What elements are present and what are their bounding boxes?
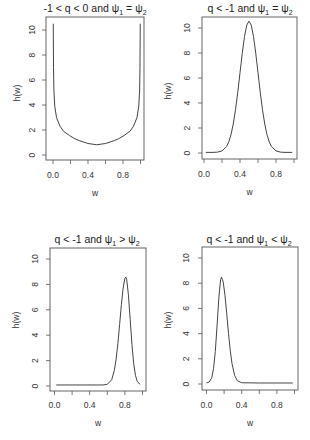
title-subscript: 2 — [136, 240, 140, 247]
title-text: < ψ — [268, 233, 287, 245]
y-tick-label: 10 — [30, 254, 40, 264]
y-tick-label: 6 — [181, 306, 191, 311]
x-tick-label: 0.8 — [271, 400, 283, 410]
x-tick-label: 0.0 — [201, 400, 213, 410]
y-tick-label: 0 — [30, 383, 40, 388]
y-tick-label: 8 — [30, 282, 40, 287]
figure: -1 < q < 0 and ψ1​ = ψ2​02468100.00.40.8… — [0, 0, 310, 440]
y-tick-label: 0 — [27, 152, 37, 157]
x-tick-label: 0.0 — [47, 170, 59, 180]
y-tick-label: 2 — [30, 358, 40, 363]
title-subscript: 2 — [143, 9, 147, 16]
y-tick-label: 4 — [27, 102, 37, 107]
title-text: = ψ — [269, 2, 288, 14]
x-axis-label: w — [245, 187, 253, 197]
y-tick-label: 8 — [27, 52, 37, 57]
panel-title: q < -1 and ψ1​ < ψ2​ — [206, 233, 291, 247]
y-tick-label: 2 — [181, 356, 191, 361]
y-tick-label: 10 — [182, 23, 192, 33]
x-tick-label: 0.4 — [84, 400, 96, 410]
title-text: q < -1 and ψ — [54, 233, 112, 245]
y-tick-label: 8 — [181, 281, 191, 286]
y-axis-label: h(w) — [163, 312, 173, 329]
x-tick-label: 0.8 — [119, 400, 131, 410]
y-tick-label: 0 — [181, 381, 191, 386]
y-tick-label: 4 — [181, 331, 191, 336]
panel-title: q < -1 and ψ1​ > ψ2​ — [54, 233, 139, 247]
y-tick-label: 4 — [30, 333, 40, 338]
y-tick-label: 6 — [27, 77, 37, 82]
x-tick-label: 0.0 — [49, 400, 61, 410]
x-tick-label: 0.8 — [270, 169, 282, 179]
title-text: q < -1 and ψ — [207, 2, 265, 14]
title-text: = ψ — [123, 2, 142, 14]
y-tick-label: 2 — [182, 125, 192, 130]
y-tick-label: 8 — [182, 50, 192, 55]
title-subscript: 2 — [288, 240, 292, 247]
y-tick-label: 0 — [182, 150, 192, 155]
y-tick-label: 10 — [27, 25, 37, 35]
x-tick-label: 0.0 — [198, 169, 210, 179]
x-tick-label: 0.4 — [236, 400, 248, 410]
title-text: > ψ — [116, 233, 135, 245]
panel-title: -1 < q < 0 and ψ1​ = ψ2​ — [43, 2, 146, 16]
title-text: q < -1 and ψ — [206, 233, 264, 245]
figure-background — [0, 0, 310, 440]
y-tick-label: 6 — [30, 307, 40, 312]
y-tick-label: 10 — [181, 253, 191, 263]
panel-title: q < -1 and ψ1​ = ψ2​ — [207, 2, 292, 16]
x-tick-label: 0.4 — [82, 170, 94, 180]
x-axis-label: w — [91, 188, 99, 198]
x-axis-label: w — [246, 418, 254, 428]
y-tick-label: 2 — [27, 127, 37, 132]
title-subscript: 2 — [289, 9, 293, 16]
y-tick-label: 6 — [182, 75, 192, 80]
title-text: -1 < q < 0 and ψ — [43, 2, 119, 14]
x-axis-label: w — [94, 418, 102, 428]
y-axis-label: h(w) — [163, 83, 173, 100]
x-tick-label: 0.8 — [117, 170, 129, 180]
y-tick-label: 4 — [182, 100, 192, 105]
y-axis-label: h(w) — [12, 85, 22, 102]
y-axis-label: h(w) — [11, 312, 21, 329]
x-tick-label: 0.4 — [234, 169, 246, 179]
